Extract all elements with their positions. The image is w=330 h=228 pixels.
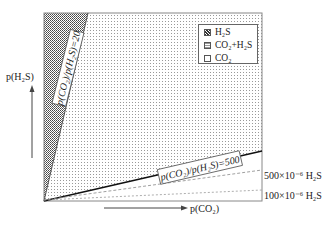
legend-label: H₂S (215, 26, 230, 39)
x-axis-label: p(CO₂) (190, 203, 219, 215)
legend-swatch-co2-icon (204, 55, 211, 62)
threshold-100-label: 100×10⁻⁶ H₂S (264, 190, 322, 201)
y-axis-arrowhead-icon (30, 85, 35, 92)
diagram-canvas: p(CO₂)/p(H₂S)=20 p(CO₂)/p(H₂S)=500 p(H₂S… (0, 0, 330, 228)
y-axis-label: p(H₂S) (6, 71, 34, 83)
legend-label: CO₂+H₂S (215, 39, 252, 52)
legend-label: CO₂ (215, 52, 232, 65)
legend-item-co2: CO₂ (204, 52, 257, 65)
legend: H₂S CO₂+H₂S CO₂ (198, 24, 258, 64)
legend-item-co2-h2s: CO₂+H₂S (204, 39, 257, 52)
x-axis-arrowhead-icon (181, 206, 188, 211)
threshold-500-label: 500×10⁻⁶ H₂S (264, 170, 322, 181)
legend-swatch-co2-h2s-icon (204, 42, 211, 49)
legend-item-h2s: H₂S (204, 26, 257, 39)
legend-swatch-h2s-icon (204, 29, 211, 36)
